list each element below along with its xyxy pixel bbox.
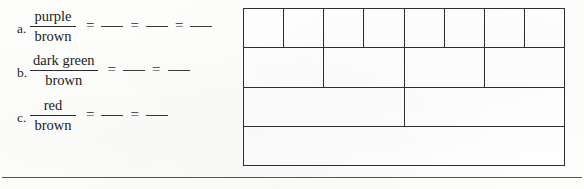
exercise-item-c: c. red brown = = xyxy=(0,97,236,134)
equals-sign: = xyxy=(86,107,94,122)
bar-model-row xyxy=(244,127,564,165)
fraction-b: dark green brown xyxy=(30,52,98,89)
answer-blank-a2[interactable] xyxy=(146,26,168,27)
equals-sign: = xyxy=(152,62,160,77)
page-divider-rule xyxy=(2,177,582,178)
bar-model-cell[interactable] xyxy=(244,9,284,47)
equals-sign: = xyxy=(175,18,183,33)
bar-model-cell[interactable] xyxy=(364,9,404,47)
fraction-numerator-a: purple xyxy=(31,8,74,25)
fraction-bar-a xyxy=(30,26,76,27)
fraction-denominator-b: brown xyxy=(42,72,85,89)
bar-model-row xyxy=(244,9,564,48)
exercise-list: a. purple brown = = = b. dark green brow… xyxy=(0,0,236,166)
fraction-denominator-c: brown xyxy=(31,117,74,134)
fraction-bar-c xyxy=(30,115,76,116)
answer-blank-b2[interactable] xyxy=(168,70,190,71)
bar-model-cell[interactable] xyxy=(485,48,564,86)
equals-sign: = xyxy=(130,18,138,33)
fraction-bar-model xyxy=(243,8,565,166)
equals-sign: = xyxy=(108,62,116,77)
equals-sign: = xyxy=(86,18,94,33)
bar-model-cell[interactable] xyxy=(244,88,405,126)
exercise-label-b: b. xyxy=(0,66,30,89)
answer-blank-a3[interactable] xyxy=(190,26,212,27)
fraction-denominator-a: brown xyxy=(31,28,74,45)
answer-blank-c1[interactable] xyxy=(101,115,123,116)
equation-chain-b: = = xyxy=(104,62,193,78)
bar-model-cell[interactable] xyxy=(525,9,564,47)
fraction-a: purple brown xyxy=(30,8,76,45)
exercise-item-a: a. purple brown = = = xyxy=(0,8,236,45)
worksheet-page: a. purple brown = = = b. dark green brow… xyxy=(0,0,584,189)
fraction-numerator-b: dark green xyxy=(30,52,98,69)
exercise-label-a: a. xyxy=(0,22,30,45)
equation-chain-c: = = xyxy=(82,107,171,123)
bar-model-cell[interactable] xyxy=(244,127,564,165)
bar-model-row xyxy=(244,88,564,127)
bar-model-cell[interactable] xyxy=(485,9,525,47)
bar-model-cell[interactable] xyxy=(405,9,445,47)
bar-model-cell[interactable] xyxy=(405,48,485,86)
bar-model-cell[interactable] xyxy=(324,48,404,86)
fraction-c: red brown xyxy=(30,97,76,134)
equation-chain-a: = = = xyxy=(82,18,215,34)
answer-blank-a1[interactable] xyxy=(101,26,123,27)
bar-model-cell[interactable] xyxy=(445,9,485,47)
answer-blank-b1[interactable] xyxy=(123,70,145,71)
exercise-item-b: b. dark green brown = = xyxy=(0,52,236,89)
fraction-numerator-c: red xyxy=(41,97,66,114)
bar-model-cell[interactable] xyxy=(324,9,364,47)
equals-sign: = xyxy=(130,107,138,122)
bar-model-cell[interactable] xyxy=(244,48,324,86)
bar-model-row xyxy=(244,48,564,87)
bar-model-cell[interactable] xyxy=(284,9,324,47)
exercise-label-c: c. xyxy=(0,111,30,134)
bar-model-cell[interactable] xyxy=(405,88,565,126)
answer-blank-c2[interactable] xyxy=(146,115,168,116)
fraction-bar-b xyxy=(30,70,98,71)
